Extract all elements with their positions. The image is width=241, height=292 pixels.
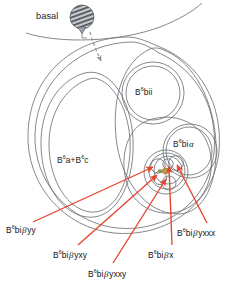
region-b6a-b6c-outline xyxy=(41,72,133,217)
basal-lamina-curve xyxy=(26,3,202,40)
region-b6bii-rest: bii xyxy=(144,87,153,97)
region-b6bii-outline xyxy=(122,62,184,124)
migration-arrow xyxy=(90,32,101,61)
greek-alpha-glyph: α xyxy=(188,139,194,149)
region-label-b6bi-alpha: B6biα xyxy=(173,139,194,149)
c4-suffix: yxxx xyxy=(198,228,215,238)
basal-label: basal xyxy=(36,12,58,21)
callout-label-b6bi-beta-yy: B6biβyy xyxy=(6,225,36,235)
bi-group-outline xyxy=(124,117,212,213)
c1-suffix: yxy xyxy=(74,250,87,260)
outer-body-outline-inner xyxy=(35,42,215,229)
region-b6c-tail: c xyxy=(84,155,88,165)
callout-label-b6bi-beta-yxxy: B6biβyxxy xyxy=(88,269,126,279)
c2-suffix: yxxy xyxy=(109,269,126,279)
nucleus-mark-b xyxy=(158,169,162,173)
leader-b6bi-beta-x xyxy=(169,166,172,245)
leader-b6bi-beta-yxy xyxy=(78,175,157,245)
region-b6a-rest: a+B xyxy=(66,155,81,165)
region-label-b6bii: B6bii xyxy=(135,87,152,96)
embryo-outlines xyxy=(26,3,219,233)
c3-suffix: x xyxy=(169,250,173,260)
c0-suffix: yy xyxy=(27,225,36,235)
callout-label-b6bi-beta-x: B6biβx xyxy=(148,250,173,260)
lineage-diagram-svg xyxy=(0,0,241,292)
callout-label-b6bi-beta-yxxx: B6biβyxxx xyxy=(177,228,215,238)
region-b6a-b6c-outline-2 xyxy=(49,78,130,212)
region-label-b6a-b6c: B6a+B6c xyxy=(57,155,88,164)
figure-panel: basal B6a+B6c B6bii B6biα B6biβyy B6biβy… xyxy=(0,0,241,292)
callout-label-b6bi-beta-yxy: B6biβyxy xyxy=(53,250,87,260)
